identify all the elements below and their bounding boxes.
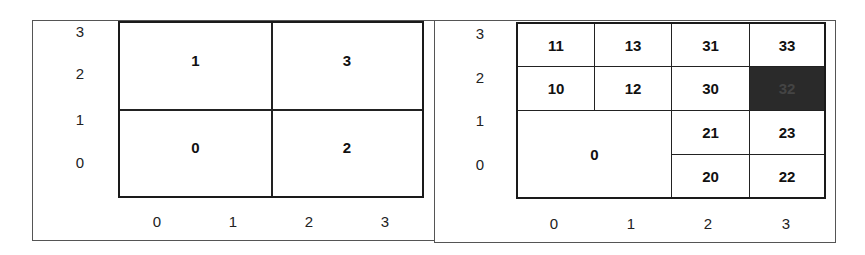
left-x-tick-2: 2 xyxy=(299,214,319,230)
right-cell-11: 11 xyxy=(518,24,595,67)
left-grid: 1 3 0 2 xyxy=(118,21,424,198)
left-y-tick-2: 2 xyxy=(70,66,90,82)
left-x-tick-1: 1 xyxy=(223,214,243,230)
right-x-tick-2: 2 xyxy=(698,216,718,232)
left-y-tick-3: 3 xyxy=(70,24,90,40)
left-cell-0: 0 xyxy=(120,111,271,183)
left-x-tick-3: 3 xyxy=(375,214,395,230)
right-cell-10: 10 xyxy=(518,67,595,111)
right-y-tick-0: 0 xyxy=(470,157,490,173)
right-cell-12: 12 xyxy=(595,67,672,111)
left-cell-1: 1 xyxy=(120,23,271,97)
right-x-tick-0: 0 xyxy=(544,216,564,232)
right-cell-22: 22 xyxy=(750,155,824,197)
right-x-tick-3: 3 xyxy=(776,216,796,232)
right-cell-20: 20 xyxy=(672,155,750,197)
right-cell-21: 21 xyxy=(672,111,750,155)
right-y-tick-3: 3 xyxy=(470,26,490,42)
left-cell-2: 2 xyxy=(272,111,422,183)
right-cell-33: 33 xyxy=(750,24,824,67)
left-y-tick-1: 1 xyxy=(70,112,90,128)
right-y-tick-1: 1 xyxy=(470,113,490,129)
right-x-tick-1: 1 xyxy=(621,216,641,232)
right-grid: 11 13 31 33 10 12 30 32 0 21 23 20 22 xyxy=(516,22,826,199)
right-cell-13: 13 xyxy=(595,24,672,67)
right-cell-32-highlighted: 32 xyxy=(750,67,824,111)
right-cell-30: 30 xyxy=(672,67,750,111)
right-y-tick-2: 2 xyxy=(470,70,490,86)
left-x-tick-0: 0 xyxy=(147,214,167,230)
right-cell-23: 23 xyxy=(750,111,824,155)
left-y-tick-0: 0 xyxy=(70,155,90,171)
left-cell-3: 3 xyxy=(272,23,422,97)
right-cell-0: 0 xyxy=(518,111,672,197)
right-cell-31: 31 xyxy=(672,24,750,67)
